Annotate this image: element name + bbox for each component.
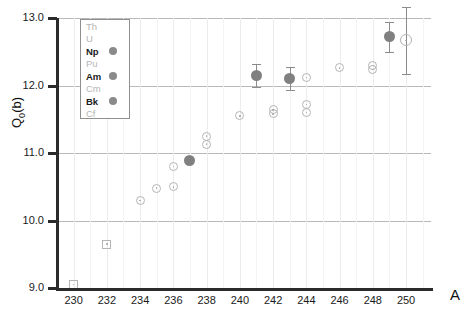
data-point-u [169,182,178,191]
legend-item-bk[interactable]: Bk [81,95,129,108]
error-bar-cap [286,67,295,68]
data-point-cm [302,73,311,82]
gridline-vertical-minor [256,18,257,288]
gridline-vertical [207,18,208,288]
error-bar-cap [252,64,261,65]
gridline-horizontal [57,221,431,222]
y-tick-mark [48,152,57,155]
y-tick-label: 10.0 [0,215,44,226]
y-tick-label: 12.0 [0,80,44,91]
legend-item-label: Np [86,47,99,57]
chart-root: Q0(b) A 9.010.011.012.013.0 230232234236… [0,0,473,321]
data-point-center [372,69,374,71]
gridline-vertical-minor [290,18,291,288]
error-bar-cap [385,52,394,53]
legend-item-label: Bk [86,97,98,107]
y-tick-label: 9.0 [0,282,44,293]
error-bar-cap [385,22,394,23]
gridline-vertical-minor [223,18,224,288]
gridline-vertical-minor [356,18,357,288]
gridline-vertical [240,18,241,288]
gridline-vertical [273,18,274,288]
gridline-vertical [173,18,174,288]
gridline-vertical-minor [190,18,191,288]
legend-marker-dot [109,97,117,105]
data-point-center [272,109,274,111]
data-point-pu [202,140,211,149]
data-point-pu [302,108,311,117]
data-point-th [102,240,111,249]
y-tick-mark [48,85,57,88]
gridline-vertical-minor [389,18,390,288]
data-point-cm [368,65,377,74]
data-point-cm [335,63,344,72]
data-point-cm [302,100,311,109]
data-point-center [156,187,158,189]
data-point-center [239,115,241,117]
legend-marker-dot [109,47,117,55]
error-bar-cap [402,74,411,75]
legend-marker-dot [109,72,117,80]
data-point-am [251,70,262,81]
legend-item-label: Pu [86,59,98,69]
data-point-center [405,40,407,42]
gridline-horizontal [57,153,431,154]
data-point-center [173,186,175,188]
data-point-center [306,104,308,106]
y-axis-title-main: Q [9,118,24,128]
data-point-pu [169,162,178,171]
legend-item-np[interactable]: Np [81,45,129,58]
data-point-center [206,135,208,137]
gridline-vertical-minor [323,18,324,288]
data-point-center [173,166,175,168]
data-point-center [306,77,308,79]
gridline-vertical [373,18,374,288]
x-axis-title: A [450,286,460,303]
error-bar-cap [252,87,261,88]
data-point-cf [400,34,412,46]
data-point-center [206,143,208,145]
gridline-vertical-minor [423,18,424,288]
legend-item-label: Cm [86,84,101,94]
x-tick-label: 250 [386,295,426,306]
y-tick-mark [48,287,57,290]
data-point-center [139,200,141,202]
legend-item-pu[interactable]: Pu [81,58,129,71]
legend-item-u[interactable]: U [81,33,129,46]
legend-item-am[interactable]: Am [81,70,129,83]
y-tick-label: 11.0 [0,147,44,158]
y-tick-mark [48,220,57,223]
y-axis-title-subscript: 0 [17,113,27,118]
error-bar-cap [286,90,295,91]
gridline-vertical [140,18,141,288]
gridline-vertical [306,18,307,288]
y-tick-label: 13.0 [0,12,44,23]
data-point-np [184,155,195,166]
y-axis-title-unit: (b) [9,97,24,113]
data-point-bk [384,31,395,42]
data-point-center [73,284,75,286]
data-point-pu [235,111,244,120]
data-point-center [306,112,308,114]
gridline-vertical [340,18,341,288]
legend-item-cm[interactable]: Cm [81,83,129,96]
legend-item-th[interactable]: Th [81,20,129,33]
legend-item-label: Th [86,22,97,32]
gridline-vertical-minor [157,18,158,288]
error-bar-cap [402,7,411,8]
data-point-am [284,73,295,84]
y-axis-title: Q0(b) [9,97,27,128]
legend-item-label: Cf [86,109,96,119]
y-tick-mark [48,17,57,20]
data-point-center [106,243,108,245]
legend-item-label: Am [86,72,101,82]
legend-item-label: U [86,34,93,44]
data-point-cm [269,105,278,114]
data-point-center [339,67,341,69]
series-legend[interactable]: ThUNpPuAmCmBkCf [80,19,130,119]
data-point-u [136,196,145,205]
data-point-u [152,184,161,193]
x-axis-line [56,288,433,291]
gridline-vertical [74,18,75,288]
legend-item-cf[interactable]: Cf [81,108,129,121]
